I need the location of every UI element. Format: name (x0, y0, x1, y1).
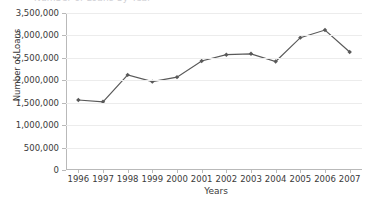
x-axis-tick-label: 1998 (117, 174, 139, 184)
data-point-marker (76, 98, 80, 102)
x-axis-tick-label: 2003 (240, 174, 262, 184)
y-axis-tick-label: 2,000,000 (16, 75, 59, 85)
x-axis-tick-label: 2006 (314, 174, 336, 184)
y-axis-tick-label: 0 (54, 165, 59, 175)
series-line (66, 13, 362, 170)
loans-by-year-chart: Number of Loans by Year Number of Loans … (0, 0, 368, 202)
y-axis-tick (62, 35, 66, 36)
gridline (66, 35, 362, 36)
x-axis-tick-label: 1999 (142, 174, 164, 184)
x-axis-tick (350, 170, 351, 173)
y-axis-tick-label: 3,500,000 (16, 8, 59, 18)
gridline (66, 80, 362, 81)
x-axis-title: Years (66, 186, 366, 196)
plot-area: 0500,0001,000,0001,500,0002,000,0002,500… (66, 13, 362, 170)
x-axis-tick (325, 170, 326, 173)
y-axis-tick-label: 3,000,000 (16, 30, 59, 40)
x-axis-tick-label: 2001 (191, 174, 213, 184)
data-point-marker (224, 53, 228, 57)
gridline (66, 148, 362, 149)
x-axis-tick (226, 170, 227, 173)
x-axis-tick (276, 170, 277, 173)
gridline (66, 58, 362, 59)
x-axis-tick (78, 170, 79, 173)
x-axis-tick (128, 170, 129, 173)
y-axis-tick (62, 170, 66, 171)
gridline (66, 103, 362, 104)
x-axis-tick (300, 170, 301, 173)
gridline (66, 125, 362, 126)
x-axis-tick (152, 170, 153, 173)
x-axis-tick-label: 1996 (68, 174, 90, 184)
x-axis-tick-label: 2007 (339, 174, 361, 184)
chart-title-text: Number of Loans by Year (34, 0, 151, 3)
series-polyline (78, 30, 349, 102)
x-axis-tick (177, 170, 178, 173)
x-axis-tick-label: 2004 (265, 174, 287, 184)
x-axis-tick (103, 170, 104, 173)
y-axis-tick-label: 1,000,000 (16, 120, 59, 130)
y-axis-tick (62, 148, 66, 149)
y-axis-tick-label: 2,500,000 (16, 53, 59, 63)
x-axis-tick (251, 170, 252, 173)
gridline (66, 13, 362, 14)
x-axis-tick-label: 2002 (216, 174, 238, 184)
y-axis-tick (62, 103, 66, 104)
y-axis-tick-label: 500,000 (24, 143, 59, 153)
y-axis-tick (62, 125, 66, 126)
cropped-chart-title: Number of Loans by Year (0, 0, 368, 7)
data-point-marker (249, 52, 253, 56)
x-axis-tick (202, 170, 203, 173)
x-axis-tick-label: 1997 (92, 174, 114, 184)
y-axis-tick (62, 13, 66, 14)
x-axis-tick-label: 2005 (290, 174, 312, 184)
x-axis-tick-label: 2000 (166, 174, 188, 184)
y-axis-tick-label: 1,500,000 (16, 98, 59, 108)
y-axis-tick (62, 58, 66, 59)
y-axis-tick (62, 80, 66, 81)
